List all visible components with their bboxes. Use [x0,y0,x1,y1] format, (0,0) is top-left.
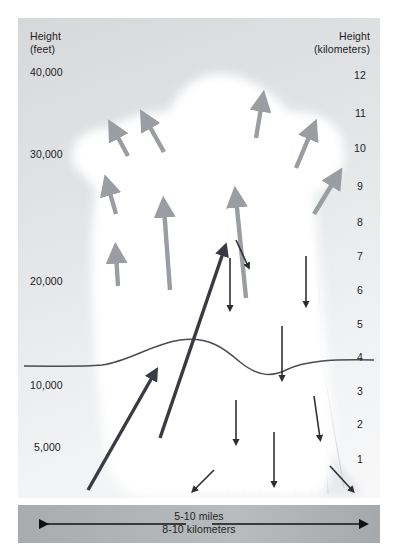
right-axis-tick-9: 9 [357,180,363,193]
right-axis-tick-11: 11 [355,107,366,120]
left-axis-tick-40000: 40,000 [30,66,63,79]
thunderstorm-diagram: Height (feet) 40,000 30,000 20,000 10,00… [0,0,398,554]
right-axis-tick-1: 1 [357,453,363,466]
right-axis-tick-2: 2 [357,418,363,431]
left-axis-header-line2: (feet) [30,43,55,56]
scale-label-miles: 5-10 miles [18,510,380,522]
left-axis-tick-5000: 5,000 [34,441,61,454]
left-axis-tick-30000: 30,000 [30,148,63,161]
left-axis-header-line1: Height [30,30,61,43]
sky-panel: Height (feet) 40,000 30,000 20,000 10,00… [18,18,380,498]
right-axis-header-line2: (kilometers) [314,43,370,56]
right-axis-tick-4: 4 [357,351,363,364]
right-axis-tick-6: 6 [357,284,363,297]
right-axis-tick-5: 5 [357,318,363,331]
right-axis-tick-7: 7 [357,250,363,263]
scale-label-kilometers: 8-10 kilometers [18,523,380,535]
storm-artwork [18,18,380,498]
cumulonimbus-cloud [72,73,345,496]
left-axis-tick-10000: 10,000 [30,379,63,392]
right-axis-tick-3: 3 [357,385,363,398]
ground-scale-bar: 5-10 miles 8-10 kilometers [18,505,380,543]
right-axis-header-line1: Height [339,30,370,43]
right-axis-tick-10: 10 [354,142,366,155]
left-axis-tick-20000: 20,000 [30,275,63,288]
right-axis-tick-12: 12 [354,69,366,82]
right-axis-tick-8: 8 [357,216,363,229]
